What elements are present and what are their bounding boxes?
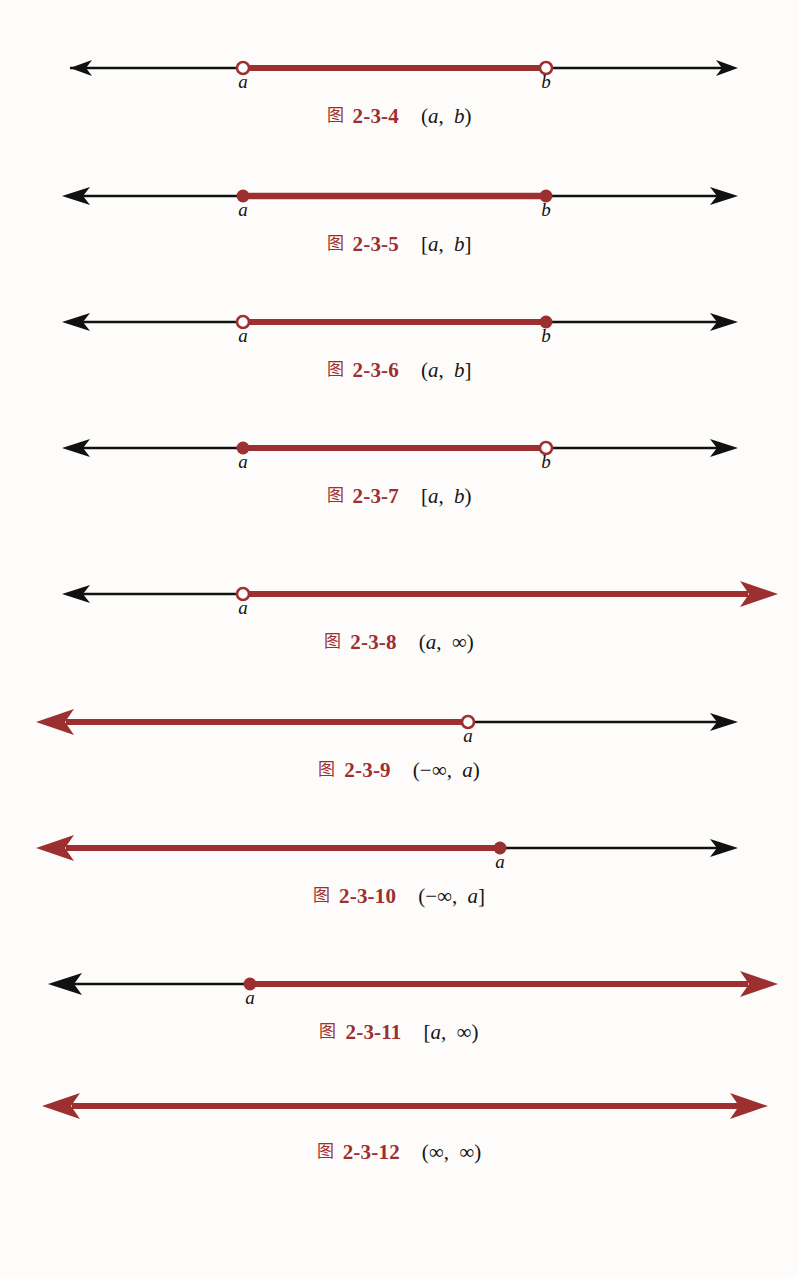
axis-label-a: a [455,725,481,747]
figure-2-3-4: a b 图2-3-4(a, b) [0,42,798,132]
figure-icon: 图 [319,1014,336,1048]
caption-2-3-8: 图2-3-8(a, ∞) [0,624,798,658]
axis-label-a: a [230,71,256,93]
figure-2-3-7: a b 图2-3-7[a, b) [0,422,798,512]
figure-number: 2-3-10 [339,879,396,913]
figure-2-3-9: a 图2-3-9(−∞, a) [0,696,798,786]
interval-notation: [a, b) [421,479,472,513]
figure-2-3-6: a b 图2-3-6(a, b] [0,296,798,386]
number-line-2-3-7: a b [0,422,798,478]
figure-number: 2-3-8 [350,625,397,659]
figure-2-3-10: a 图2-3-10(−∞, a] [0,822,798,912]
figure-icon: 图 [313,878,330,912]
caption-2-3-4: 图2-3-4(a, b) [0,98,798,132]
figure-page: a b 图2-3-4(a, b) a b 图2-3-5[a, b] [0,0,798,1277]
caption-2-3-12: 图2-3-12(∞, ∞) [0,1134,798,1168]
number-line-2-3-6: a b [0,296,798,352]
interval-notation: (a, b] [421,353,472,387]
caption-2-3-5: 图2-3-5[a, b] [0,226,798,260]
interval-notation: (a, ∞) [419,625,474,659]
figure-number: 2-3-12 [343,1135,400,1169]
interval-notation: (−∞, a) [413,753,480,787]
figure-2-3-5: a b 图2-3-5[a, b] [0,170,798,260]
caption-2-3-11: 图2-3-11[a, ∞) [0,1014,798,1048]
interval-notation: [a, ∞) [424,1015,479,1049]
caption-2-3-6: 图2-3-6(a, b] [0,352,798,386]
axis-label-b: b [533,325,559,347]
figure-2-3-11: a 图2-3-11[a, ∞) [0,958,798,1048]
axis-label-a: a [487,851,513,873]
figure-number: 2-3-6 [353,353,400,387]
axis-label-a: a [230,451,256,473]
caption-2-3-9: 图2-3-9(−∞, a) [0,752,798,786]
caption-2-3-10: 图2-3-10(−∞, a] [0,878,798,912]
axis-label-a: a [230,325,256,347]
number-line-2-3-9: a [0,696,798,752]
figure-icon: 图 [317,1134,334,1168]
axis-label-a: a [230,199,256,221]
figure-number: 2-3-5 [353,227,400,261]
number-line-2-3-11: a [0,958,798,1014]
axis-label-a: a [230,597,256,619]
number-line-2-3-10: a [0,822,798,878]
figure-icon: 图 [318,752,335,786]
figure-icon: 图 [327,226,344,260]
caption-2-3-7: 图2-3-7[a, b) [0,478,798,512]
figure-number: 2-3-11 [345,1015,401,1049]
figure-icon: 图 [327,98,344,132]
figure-icon: 图 [327,352,344,386]
figure-2-3-8: a 图2-3-8(a, ∞) [0,568,798,658]
interval-notation: (∞, ∞) [422,1135,481,1169]
number-line-2-3-12 [0,1078,798,1134]
figure-number: 2-3-7 [353,479,400,513]
interval-notation: (−∞, a] [418,879,485,913]
axis-label-b: b [533,451,559,473]
axis-label-a: a [237,987,263,1009]
interval-notation: [a, b] [421,227,472,261]
figure-icon: 图 [324,624,341,658]
axis-label-b: b [533,71,559,93]
interval-notation: (a, b) [421,99,472,133]
figure-icon: 图 [327,478,344,512]
figure-number: 2-3-4 [353,99,400,133]
figure-2-3-12: 图2-3-12(∞, ∞) [0,1078,798,1168]
figure-number: 2-3-9 [344,753,391,787]
number-line-2-3-8: a [0,568,798,624]
number-line-2-3-4: a b [0,42,798,98]
axis-label-b: b [533,199,559,221]
number-line-2-3-5: a b [0,170,798,226]
